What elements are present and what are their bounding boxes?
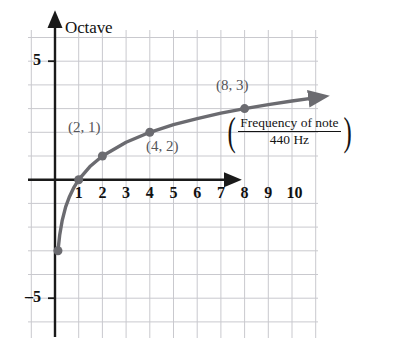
- data-point-1-0: [74, 175, 83, 184]
- x-tick-label-5: 5: [164, 185, 184, 201]
- annotation-point-4-2: (4, 2): [146, 139, 179, 154]
- x-tick-label-9: 9: [258, 185, 278, 201]
- annotation-point-8-3: (8, 3): [216, 78, 249, 93]
- fraction-denominator: 440 Hz: [268, 132, 311, 147]
- frequency-ratio-fraction: Frequency of note 440 Hz: [236, 116, 342, 146]
- left-parenthesis: (: [228, 116, 236, 147]
- y-tick-label-minus-5: –5: [25, 289, 41, 305]
- y-axis-title: Octave: [65, 19, 113, 36]
- data-point-0.125--3: [53, 246, 62, 255]
- x-tick-label-4: 4: [140, 185, 160, 201]
- x-tick-label-6: 6: [187, 185, 207, 201]
- x-tick-label-10: 10: [285, 185, 305, 201]
- data-point-8-3: [240, 104, 249, 113]
- x-tick-label-2: 2: [92, 185, 112, 201]
- x-tick-label-1: 1: [69, 185, 89, 201]
- x-axis-title-expression: ( Frequency of note 440 Hz ): [225, 116, 354, 147]
- plot-canvas: [0, 0, 413, 340]
- data-point-4-2: [145, 128, 154, 137]
- data-point-2-1: [98, 152, 107, 161]
- graph-figure: Octave 5 –5 1 2 3 4 5 6 7 8 9 10 (2, 1) …: [0, 0, 413, 340]
- y-tick-label-5: 5: [33, 52, 41, 68]
- annotation-point-2-1: (2, 1): [68, 120, 101, 135]
- x-tick-label-8: 8: [235, 185, 255, 201]
- x-tick-label-7: 7: [211, 185, 231, 201]
- right-parenthesis: ): [343, 116, 351, 147]
- fraction-numerator: Frequency of note: [238, 116, 340, 131]
- x-tick-label-3: 3: [116, 185, 136, 201]
